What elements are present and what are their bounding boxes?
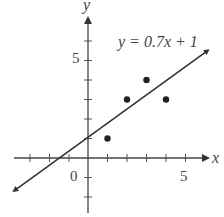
y-axis-label: y	[81, 0, 91, 14]
data-points	[104, 77, 169, 142]
y-tick-label-5: 5	[72, 50, 80, 66]
data-point	[143, 77, 149, 83]
x-axis-label: x	[211, 149, 219, 166]
equation-label: y = 0.7x + 1	[116, 33, 198, 51]
data-point	[124, 96, 130, 102]
data-point	[104, 135, 110, 141]
regression-line	[14, 50, 208, 191]
origin-label: 0	[70, 168, 78, 184]
scatter-plot: x y 0 5 5 y = 0.7x + 1	[0, 0, 224, 217]
data-point	[163, 96, 169, 102]
x-tick-label-5: 5	[180, 168, 188, 184]
